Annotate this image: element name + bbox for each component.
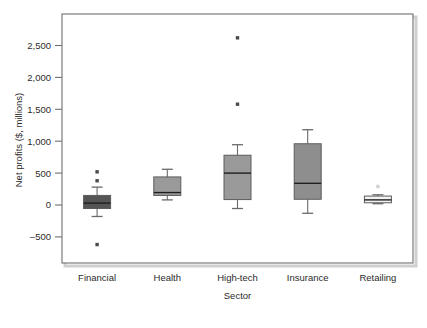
y-axis-tick-label: 1,000 [27,136,51,147]
chart-canvas: –50005001,0001,5002,0002,500 FinancialHe… [0,0,427,328]
outlier-point [236,36,239,39]
outlier-point [236,102,239,105]
y-axis-tick-label: 2,500 [27,40,51,51]
y-axis-tick-label: 1,500 [27,104,51,115]
y-axis-tick-label: 500 [35,168,51,179]
y-axis-title: Net profits ($, millions) [13,93,24,188]
box-plot-chart: –50005001,0001,5002,0002,500 FinancialHe… [0,0,427,328]
x-axis-category-label: Retailing [359,272,396,283]
box-iqr [294,144,321,200]
outlier-point [95,170,98,173]
box-iqr [224,155,251,199]
x-axis-category-label: Financial [78,272,116,283]
x-axis-category-label: Health [154,272,181,283]
outlier-point [95,243,98,246]
outlier-point [376,185,379,188]
x-axis-category-label: High-tech [217,272,258,283]
x-axis-category-label: Insurance [287,272,329,283]
x-axis-title: Sector [224,290,251,301]
plot-frame [62,14,416,266]
y-axis-tick-label: 0 [46,199,51,210]
y-axis-tick-label: 2,000 [27,72,51,83]
y-axis-tick-label: –500 [30,231,51,242]
box-iqr [84,195,111,208]
outlier-point [95,179,98,182]
